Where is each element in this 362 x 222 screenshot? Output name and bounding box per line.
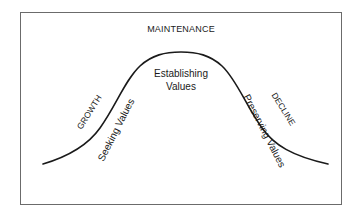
establishing-values-label: Establishing Values <box>0 67 362 93</box>
establishing-line1: Establishing <box>0 67 362 80</box>
maintenance-label: MAINTENANCE <box>0 25 362 34</box>
establishing-line2: Values <box>0 80 362 93</box>
